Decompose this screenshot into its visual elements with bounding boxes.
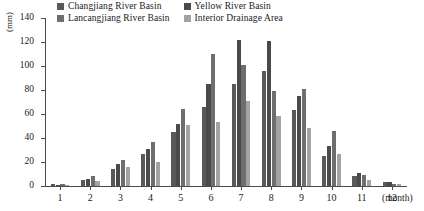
y-tick-label: 140	[0, 13, 34, 23]
y-tick	[41, 186, 46, 187]
x-tick	[241, 186, 242, 190]
bar	[357, 173, 361, 186]
y-tick-label: 0	[0, 181, 34, 191]
x-tick-label: 6	[199, 192, 223, 204]
bar-group-month-10	[322, 18, 341, 186]
bar	[156, 162, 160, 186]
x-tick-label: 4	[139, 192, 163, 204]
bar	[327, 146, 331, 186]
bar	[86, 179, 90, 186]
x-tick	[271, 186, 272, 190]
bar	[181, 109, 185, 186]
bar-group-month-6	[202, 18, 221, 186]
bar-group-month-1	[51, 18, 70, 186]
bar	[276, 116, 280, 186]
bar	[202, 107, 206, 186]
legend-label: Yellow River Basin	[195, 1, 271, 12]
x-tick	[120, 186, 121, 190]
y-tick-label: 80	[0, 85, 34, 95]
x-tick-label: 8	[259, 192, 283, 204]
legend-item-changjiang-river-basin: Changjiang River Basin	[57, 1, 170, 12]
x-tick	[90, 186, 91, 190]
bar-group-month-2	[81, 18, 100, 186]
bar	[246, 101, 250, 186]
plot-area	[45, 18, 407, 186]
legend-label: Changjiang River Basin	[68, 1, 162, 12]
x-tick-label: 1	[48, 192, 72, 204]
bar	[302, 89, 306, 186]
bar	[267, 41, 271, 186]
bar	[362, 175, 366, 186]
bar	[171, 132, 175, 186]
bar-group-month-12	[383, 18, 402, 186]
x-tick-label: 5	[169, 192, 193, 204]
y-tick-label: 60	[0, 109, 34, 119]
bar	[81, 180, 85, 186]
bar	[95, 181, 99, 186]
bar	[126, 167, 130, 186]
bar	[297, 96, 301, 186]
x-tick-label: 9	[289, 192, 313, 204]
bar	[383, 182, 387, 186]
bar	[176, 124, 180, 186]
bar	[322, 156, 326, 186]
bar	[91, 176, 95, 186]
bar	[241, 65, 245, 186]
bar	[216, 122, 220, 186]
bar	[232, 84, 236, 186]
x-tick-label: 7	[229, 192, 253, 204]
x-tick	[392, 186, 393, 190]
bar-group-month-7	[232, 18, 251, 186]
bar	[237, 40, 241, 186]
x-tick	[211, 186, 212, 190]
x-tick	[181, 186, 182, 190]
bar	[367, 180, 371, 186]
precipitation-bar-chart: Changjiang River Basin Yellow River Basi…	[0, 0, 424, 211]
x-tick	[301, 186, 302, 190]
bar	[111, 169, 115, 186]
bar-group-month-9	[292, 18, 311, 186]
x-axis-title: (month)	[382, 193, 413, 203]
bar	[51, 184, 55, 186]
bar-group-month-3	[111, 18, 130, 186]
legend-item-yellow-river-basin: Yellow River Basin	[184, 1, 283, 12]
bar	[397, 184, 401, 186]
bar	[65, 185, 69, 186]
bar	[262, 71, 266, 186]
bar	[307, 128, 311, 186]
bar	[186, 125, 190, 186]
legend-swatch-icon	[57, 3, 64, 10]
bar-group-month-8	[262, 18, 281, 186]
x-tick-label: 2	[78, 192, 102, 204]
x-tick-label: 11	[350, 192, 374, 204]
bar	[337, 154, 341, 186]
bar-group-month-5	[171, 18, 190, 186]
bar	[151, 142, 155, 186]
x-tick	[332, 186, 333, 190]
y-tick-label: 20	[0, 157, 34, 167]
x-tick-label: 3	[108, 192, 132, 204]
bar	[141, 154, 145, 186]
bar	[292, 110, 296, 186]
x-axis-line	[45, 186, 407, 187]
bar	[332, 131, 336, 186]
y-tick-label: 120	[0, 37, 34, 47]
bar	[211, 54, 215, 186]
x-tick-label: 10	[320, 192, 344, 204]
y-tick-label: 40	[0, 133, 34, 143]
bar	[272, 91, 276, 186]
bar	[146, 149, 150, 186]
legend-swatch-icon	[184, 3, 191, 10]
bar	[121, 160, 125, 186]
bar	[116, 164, 120, 186]
bar	[352, 176, 356, 186]
y-tick-label: 100	[0, 61, 34, 71]
bar	[206, 84, 210, 186]
x-tick	[362, 186, 363, 190]
bar-group-month-4	[141, 18, 160, 186]
bar-group-month-11	[352, 18, 371, 186]
x-tick	[60, 186, 61, 190]
x-tick	[151, 186, 152, 190]
